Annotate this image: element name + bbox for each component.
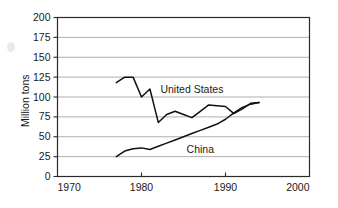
y-tick-label: 175 [33,31,51,43]
x-tick-label: 2000 [286,181,310,193]
y-tick-label: 75 [39,110,51,122]
series-label-united-states: United States [160,83,223,95]
y-tick-label: 150 [33,51,51,63]
line-chart: 0255075100125150175200 1970198019902000 … [0,0,338,208]
x-tick-label: 1970 [58,181,82,193]
y-tick-label: 125 [33,71,51,83]
scan-artifact [7,42,15,52]
y-tick-label: 100 [33,91,51,103]
y-axis-title: Million tons [19,74,31,127]
chart-canvas: 0255075100125150175200 1970198019902000 … [0,0,338,208]
x-tick-label: 1980 [130,181,154,193]
y-tick-label: 0 [45,170,51,182]
y-tick-label: 200 [33,11,51,23]
y-tick-label: 50 [39,130,51,142]
x-tick-label: 1990 [214,181,238,193]
series-label-china: China [187,143,215,155]
y-tick-label: 25 [39,150,51,162]
